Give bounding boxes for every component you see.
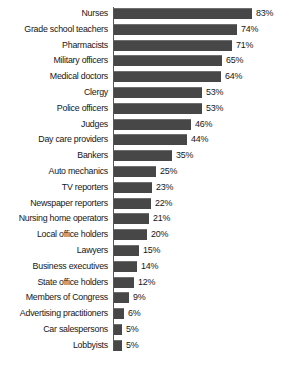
bar-category-label: Car salespersons xyxy=(6,323,108,335)
bar-value-label: 14% xyxy=(141,260,158,272)
bar-row: Advertising practitioners6% xyxy=(0,308,290,319)
bar-value-label: 23% xyxy=(156,181,173,193)
bar-category-label: Auto mechanics xyxy=(6,165,108,177)
bar-row: Clergy53% xyxy=(0,87,290,98)
bar-category-label: Police officers xyxy=(6,102,108,114)
bar-value-label: 64% xyxy=(225,70,242,82)
bar-row: Local office holders20% xyxy=(0,229,290,240)
bar xyxy=(114,213,149,224)
bar xyxy=(114,229,147,240)
bar xyxy=(114,8,252,19)
bar-value-label: 46% xyxy=(195,118,212,130)
bar-value-label: 53% xyxy=(206,86,223,98)
bar-row: Newspaper reporters22% xyxy=(0,198,290,209)
bar-value-label: 74% xyxy=(241,23,258,35)
bar-value-label: 53% xyxy=(206,102,223,114)
bar-category-label: State office holders xyxy=(6,276,108,288)
bar xyxy=(114,340,122,351)
bar-row: Nurses83% xyxy=(0,8,290,19)
bar-row: Bankers35% xyxy=(0,150,290,161)
bar-row: Business executives14% xyxy=(0,261,290,272)
bar-category-label: Grade school teachers xyxy=(6,23,108,35)
bar-row: Lawyers15% xyxy=(0,245,290,256)
bar-row: Medical doctors64% xyxy=(0,71,290,82)
bar-category-label: Local office holders xyxy=(6,228,108,240)
bar xyxy=(114,245,139,256)
bar xyxy=(114,40,232,51)
bar-value-label: 44% xyxy=(191,133,208,145)
bar-value-label: 22% xyxy=(155,197,172,209)
bar-row: Police officers53% xyxy=(0,103,290,114)
bar-category-label: Medical doctors xyxy=(6,70,108,82)
bar-row: Judges46% xyxy=(0,119,290,130)
bar-row: Nursing home operators21% xyxy=(0,213,290,224)
bar xyxy=(114,150,172,161)
bar-value-label: 15% xyxy=(143,244,160,256)
bar xyxy=(114,277,134,288)
bar-category-label: Nurses xyxy=(6,7,108,19)
bar-value-label: 9% xyxy=(133,291,145,303)
bar-category-label: Bankers xyxy=(6,149,108,161)
bar-value-label: 25% xyxy=(160,165,177,177)
bar-value-label: 12% xyxy=(138,276,155,288)
bar-value-label: 6% xyxy=(128,307,140,319)
bar-category-label: Advertising practitioners xyxy=(6,307,108,319)
bar xyxy=(114,134,187,145)
bar xyxy=(114,119,191,130)
bar xyxy=(114,71,221,82)
bar xyxy=(114,308,124,319)
bar xyxy=(114,324,122,335)
bar-row: Day care providers44% xyxy=(0,134,290,145)
bar-value-label: 5% xyxy=(126,339,138,351)
bar-value-label: 35% xyxy=(176,149,193,161)
bar-value-label: 21% xyxy=(153,212,170,224)
bar-value-label: 71% xyxy=(236,39,253,51)
bar-category-label: Day care providers xyxy=(6,133,108,145)
bar-value-label: 83% xyxy=(256,7,273,19)
bar-category-label: Clergy xyxy=(6,86,108,98)
bar-category-label: Nursing home operators xyxy=(6,212,108,224)
bar xyxy=(114,166,156,177)
bar-row: State office holders12% xyxy=(0,277,290,288)
bar-row: Military officers65% xyxy=(0,55,290,66)
bar-category-label: Judges xyxy=(6,118,108,130)
bar-row: Lobbyists5% xyxy=(0,340,290,351)
bar-value-label: 20% xyxy=(151,228,168,240)
bar-row: Car salespersons5% xyxy=(0,324,290,335)
bar-category-label: Lobbyists xyxy=(6,339,108,351)
bar-chart: Nurses83%Grade school teachers74%Pharmac… xyxy=(0,0,290,371)
bar-category-label: Military officers xyxy=(6,54,108,66)
bar-row: Grade school teachers74% xyxy=(0,24,290,35)
bar-row: TV reporters23% xyxy=(0,182,290,193)
bar-category-label: TV reporters xyxy=(6,181,108,193)
bar xyxy=(114,292,129,303)
bar-category-label: Lawyers xyxy=(6,244,108,256)
bar-value-label: 65% xyxy=(226,54,243,66)
bar-category-label: Business executives xyxy=(6,260,108,272)
bar xyxy=(114,198,151,209)
bar-category-label: Pharmacists xyxy=(6,39,108,51)
bar xyxy=(114,261,137,272)
bar xyxy=(114,24,237,35)
bar xyxy=(114,103,202,114)
bar-category-label: Members of Congress xyxy=(6,291,108,303)
bar-row: Members of Congress9% xyxy=(0,292,290,303)
bar xyxy=(114,87,202,98)
bar-value-label: 5% xyxy=(126,323,138,335)
bar-category-label: Newspaper reporters xyxy=(6,197,108,209)
bar-row: Pharmacists71% xyxy=(0,40,290,51)
bar-row: Auto mechanics25% xyxy=(0,166,290,177)
bar xyxy=(114,55,222,66)
bar xyxy=(114,182,152,193)
